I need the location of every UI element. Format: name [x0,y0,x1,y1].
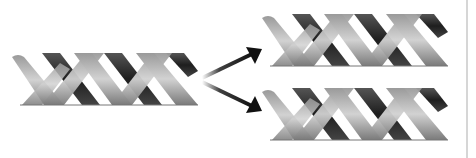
parent-dna-helix [12,53,202,107]
arrow-up-right-icon [200,44,266,116]
daughter-dna-helix-bottom [262,88,452,142]
frame-border [466,0,468,158]
daughter-dna-helix-top [262,14,452,68]
